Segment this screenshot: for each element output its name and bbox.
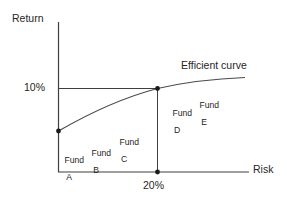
fund-c-line1: Fund bbox=[120, 137, 140, 147]
fund-b-label: Fund B bbox=[82, 140, 110, 193]
fund-b-line1: Fund bbox=[92, 148, 112, 158]
fund-e-line2: E bbox=[190, 118, 218, 127]
fund-c-line2: C bbox=[110, 155, 138, 164]
curve-origin-point bbox=[56, 129, 61, 134]
y-axis-title: Return bbox=[12, 13, 44, 24]
fund-b-line2: B bbox=[82, 166, 110, 175]
x-tick-label-20pct: 20% bbox=[143, 180, 164, 191]
efficient-frontier-chart: Return Risk 10% 20% Efficient curve Fund… bbox=[0, 0, 287, 204]
x-axis-point bbox=[155, 170, 160, 175]
fund-a-label: Fund A bbox=[55, 147, 83, 200]
efficient-curve-label: Efficient curve bbox=[181, 60, 247, 71]
fund-a-line2: A bbox=[55, 173, 83, 182]
y-tick-label-10pct: 10% bbox=[24, 82, 45, 93]
fund-d-label: Fund D bbox=[163, 100, 191, 153]
chart-canvas bbox=[0, 0, 287, 204]
x-axis-title: Risk bbox=[253, 164, 273, 175]
curve-intersection-point bbox=[155, 86, 160, 91]
fund-e-label: Fund E bbox=[190, 92, 218, 145]
fund-e-line1: Fund bbox=[200, 100, 220, 110]
fund-c-label: Fund C bbox=[110, 129, 138, 182]
fund-d-line2: D bbox=[163, 126, 191, 135]
